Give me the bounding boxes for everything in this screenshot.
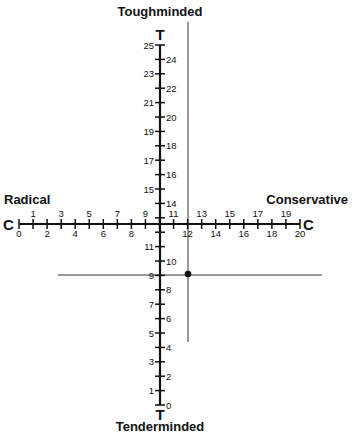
h-tick-label: 2 bbox=[44, 228, 49, 239]
h-tick-label: 7 bbox=[115, 208, 120, 219]
v-tick-label: 16 bbox=[166, 169, 177, 180]
h-tick-label: 4 bbox=[73, 228, 78, 239]
h-tick-label: 16 bbox=[239, 228, 250, 239]
h-tick-label: 8 bbox=[129, 228, 134, 239]
h-tick-label: 14 bbox=[210, 228, 221, 239]
v-tick-label: 11 bbox=[144, 241, 154, 252]
v-tick-label: 5 bbox=[149, 328, 154, 339]
v-tick-label: 3 bbox=[149, 356, 154, 367]
v-tick-label: 22 bbox=[166, 83, 177, 94]
tc-diagram: Toughminded Tenderminded Radical Conserv… bbox=[0, 0, 352, 437]
v-tick-label: 10 bbox=[166, 256, 177, 267]
v-tick-label: 23 bbox=[143, 68, 154, 79]
v-tick-label: 18 bbox=[166, 140, 177, 151]
h-tick-label: 3 bbox=[59, 208, 64, 219]
h-tick-label: 9 bbox=[143, 208, 148, 219]
marked-point bbox=[185, 271, 192, 278]
v-tick-label: 17 bbox=[143, 155, 154, 166]
h-tick-label: 12 bbox=[182, 228, 193, 239]
v-tick-label: 20 bbox=[166, 112, 177, 123]
label-conservative: Conservative bbox=[266, 192, 348, 207]
h-tick-label: 20 bbox=[295, 228, 306, 239]
v-tick-label: 19 bbox=[143, 126, 154, 137]
v-tick-label: 1 bbox=[149, 385, 154, 396]
v-tick-label: 15 bbox=[143, 184, 154, 195]
v-tick-label: 2 bbox=[166, 371, 171, 382]
v-tick-label: 21 bbox=[143, 97, 154, 108]
v-tick-label: 8 bbox=[166, 284, 171, 295]
axis-letter-t-top: T bbox=[155, 26, 164, 43]
h-tick-label: 5 bbox=[87, 208, 92, 219]
v-tick-label: 9 bbox=[149, 270, 154, 281]
v-tick-label: 0 bbox=[166, 400, 171, 411]
v-tick-label: 4 bbox=[166, 342, 171, 353]
label-radical: Radical bbox=[4, 192, 50, 207]
h-tick-label: 18 bbox=[267, 228, 278, 239]
h-tick-label: 19 bbox=[281, 208, 292, 219]
h-tick-label: 15 bbox=[224, 208, 235, 219]
v-tick-label: 24 bbox=[166, 54, 177, 65]
h-tick-label: 6 bbox=[101, 228, 106, 239]
v-tick-label: 7 bbox=[149, 299, 154, 310]
title-toughminded: Toughminded bbox=[118, 4, 203, 19]
v-tick-label: 25 bbox=[143, 40, 154, 51]
h-tick-label: 17 bbox=[253, 208, 264, 219]
axis-letter-t-bottom: T bbox=[155, 406, 164, 423]
h-tick-label: 11 bbox=[169, 208, 179, 219]
h-tick-label: 13 bbox=[196, 208, 207, 219]
v-tick-label: 6 bbox=[166, 313, 171, 324]
h-tick-label: 0 bbox=[16, 228, 21, 239]
axis-letter-c-left: C bbox=[3, 216, 14, 233]
h-tick-label: 1 bbox=[30, 208, 35, 219]
